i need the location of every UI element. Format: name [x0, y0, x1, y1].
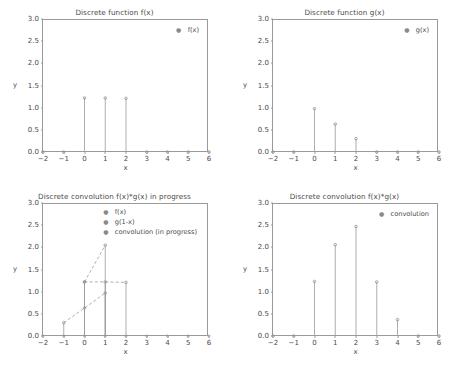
x-tick-mark: [188, 151, 189, 154]
y-tick-mark: [271, 291, 274, 292]
x-tick-mark: [43, 151, 44, 154]
y-tick-mark: [41, 225, 44, 226]
legend-marker-icon: ●: [170, 25, 188, 35]
plot-area: [273, 19, 438, 151]
subplot-conv-progress: Discrete convolution f(x)*g(x) in progre…: [0, 184, 229, 368]
x-tick-mark: [105, 335, 106, 338]
x-tick-mark: [209, 151, 210, 154]
x-tick-mark: [84, 151, 85, 154]
legend-item: ● g(x): [398, 25, 429, 35]
x-tick-mark: [63, 151, 64, 154]
x-tick-mark: [314, 151, 315, 154]
series-canvas-conv-final: [273, 203, 439, 336]
y-tick-mark: [271, 269, 274, 270]
subplot-conv-final: Discrete convolution f(x)*g(x) y x ● con…: [230, 184, 459, 368]
legend-marker-icon: ●: [97, 217, 115, 227]
legend-conv-final: ● convolution: [370, 207, 434, 221]
x-tick-mark: [188, 335, 189, 338]
x-tick-mark: [439, 151, 440, 154]
x-axis-label: x: [43, 348, 208, 356]
x-tick-mark: [63, 335, 64, 338]
y-tick-mark: [271, 85, 274, 86]
y-tick-mark: [41, 291, 44, 292]
axes-f: y x ● f(x) 0.00.51.01.52.02.53.0−2−10123…: [42, 19, 208, 152]
x-tick-mark: [397, 335, 398, 338]
legend-label: g(1-x): [115, 217, 135, 227]
y-tick-mark: [41, 129, 44, 130]
x-tick-mark: [335, 335, 336, 338]
subplot-g: Discrete function g(x) y x ● g(x) 0.00.5…: [230, 0, 459, 184]
legend-marker-icon: ●: [97, 227, 115, 237]
x-tick-mark: [293, 335, 294, 338]
y-tick-mark: [41, 41, 44, 42]
x-axis-label: x: [43, 164, 208, 172]
y-axis-label: y: [13, 265, 17, 273]
x-tick-mark: [126, 335, 127, 338]
subplot-f: Discrete function f(x) y x ● f(x) 0.00.5…: [0, 0, 229, 184]
legend-item: ● convolution: [373, 209, 429, 219]
y-tick-mark: [271, 63, 274, 64]
y-tick-mark: [271, 19, 274, 20]
plot-area: [273, 203, 438, 335]
x-axis-label: x: [273, 348, 438, 356]
y-tick-mark: [41, 313, 44, 314]
legend-item: ● f(x): [170, 25, 199, 35]
y-tick-mark: [271, 203, 274, 204]
x-tick-mark: [273, 151, 274, 154]
x-tick-mark: [397, 151, 398, 154]
x-tick-mark: [209, 335, 210, 338]
x-tick-mark: [167, 335, 168, 338]
legend-label: convolution (in progress): [115, 227, 197, 237]
x-tick-mark: [126, 151, 127, 154]
legend-item: ● convolution (in progress): [97, 227, 197, 237]
legend-item: ● f(x): [97, 207, 197, 217]
y-tick-mark: [41, 269, 44, 270]
series-canvas-g: [273, 19, 439, 152]
axes-conv-final: y x ● convolution 0.00.51.01.52.02.53.0−…: [272, 203, 438, 336]
y-tick-mark: [271, 313, 274, 314]
x-tick-mark: [293, 151, 294, 154]
y-tick-mark: [271, 247, 274, 248]
y-tick-mark: [271, 107, 274, 108]
y-tick-mark: [41, 203, 44, 204]
legend-f: ● f(x): [167, 23, 204, 37]
axes-g: y x ● g(x) 0.00.51.01.52.02.53.0−2−10123…: [272, 19, 438, 152]
y-tick-mark: [41, 247, 44, 248]
y-axis-label: y: [13, 81, 17, 89]
legend-label: convolution: [391, 209, 429, 219]
x-tick-mark: [273, 335, 274, 338]
series-canvas-f: [43, 19, 209, 152]
legend-label: f(x): [115, 207, 126, 217]
y-tick-mark: [41, 63, 44, 64]
x-tick-mark: [376, 151, 377, 154]
y-tick-mark: [41, 85, 44, 86]
legend-g: ● g(x): [395, 23, 434, 37]
plot-area: [43, 19, 208, 151]
y-axis-label: y: [243, 81, 247, 89]
x-tick-mark: [84, 335, 85, 338]
legend-marker-icon: ●: [97, 207, 115, 217]
legend-label: f(x): [188, 25, 199, 35]
x-tick-mark: [356, 151, 357, 154]
legend-marker-icon: ●: [398, 25, 416, 35]
x-tick-mark: [43, 335, 44, 338]
y-tick-mark: [271, 129, 274, 130]
y-axis-label: y: [243, 265, 247, 273]
matplotlib-figure: Discrete function f(x) y x ● f(x) 0.00.5…: [0, 0, 459, 368]
legend-item: ● g(1-x): [97, 217, 197, 227]
y-tick-mark: [41, 19, 44, 20]
x-tick-mark: [146, 151, 147, 154]
x-tick-mark: [418, 151, 419, 154]
x-tick-mark: [146, 335, 147, 338]
x-tick-mark: [418, 335, 419, 338]
x-tick-mark: [105, 151, 106, 154]
x-tick-mark: [335, 151, 336, 154]
y-tick-mark: [271, 41, 274, 42]
y-tick-mark: [271, 225, 274, 226]
x-axis-label: x: [273, 164, 438, 172]
axes-conv-progress: y x ● f(x) ● g(1-x) ● convolution (in pr…: [42, 203, 208, 336]
x-tick-mark: [356, 335, 357, 338]
x-tick-mark: [376, 335, 377, 338]
x-tick-mark: [439, 335, 440, 338]
x-tick-mark: [167, 151, 168, 154]
